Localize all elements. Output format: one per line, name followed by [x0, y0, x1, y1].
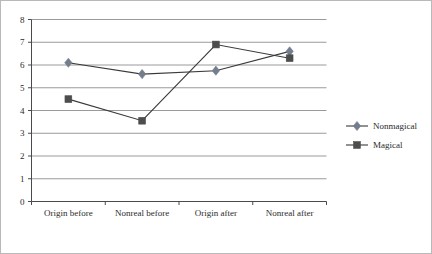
- chart-figure: 012345678 Origin beforeNonreal beforeOri…: [0, 0, 432, 254]
- legend-label-1: Magical: [373, 140, 403, 150]
- y-axis-tick-marks: [28, 20, 32, 202]
- data-point-nonmagical-0: [65, 58, 72, 67]
- y-tick-label-5: 5: [20, 83, 25, 93]
- data-point-nonmagical-1: [138, 70, 145, 79]
- legend-marker-diamond: [353, 121, 360, 130]
- y-axis-tick-labels: 012345678: [20, 15, 25, 207]
- y-tick-label-8: 8: [20, 15, 25, 25]
- y-tick-label-6: 6: [20, 60, 25, 70]
- y-tick-label-2: 2: [20, 151, 25, 161]
- y-tick-label-7: 7: [20, 37, 25, 47]
- line-chart: 012345678 Origin beforeNonreal beforeOri…: [1, 1, 432, 254]
- legend-marker-square: [354, 142, 361, 149]
- y-tick-label-1: 1: [20, 174, 25, 184]
- y-tick-label-3: 3: [20, 128, 25, 138]
- data-point-magical-1: [139, 117, 146, 124]
- data-point-magical-2: [212, 41, 219, 48]
- gridlines: [32, 20, 327, 179]
- series-line-magical: [68, 45, 289, 121]
- x-category-label-2: Origin after: [195, 208, 237, 218]
- data-point-magical-3: [286, 55, 293, 62]
- x-category-label-0: Origin before: [44, 208, 93, 218]
- x-axis-category-labels: Origin beforeNonreal beforeOrigin afterN…: [44, 208, 313, 218]
- y-tick-label-0: 0: [20, 197, 25, 207]
- x-category-label-1: Nonreal before: [115, 208, 169, 218]
- x-category-label-3: Nonreal after: [266, 208, 314, 218]
- series-line-nonmagical: [68, 51, 289, 74]
- data-point-magical-0: [65, 96, 72, 103]
- data-point-nonmagical-2: [212, 66, 219, 75]
- series-lines: [68, 45, 289, 121]
- y-tick-label-4: 4: [20, 106, 25, 116]
- x-axis-tick-marks: [32, 202, 327, 206]
- chart-legend: NonmagicalMagical: [346, 121, 417, 150]
- legend-label-0: Nonmagical: [373, 121, 417, 131]
